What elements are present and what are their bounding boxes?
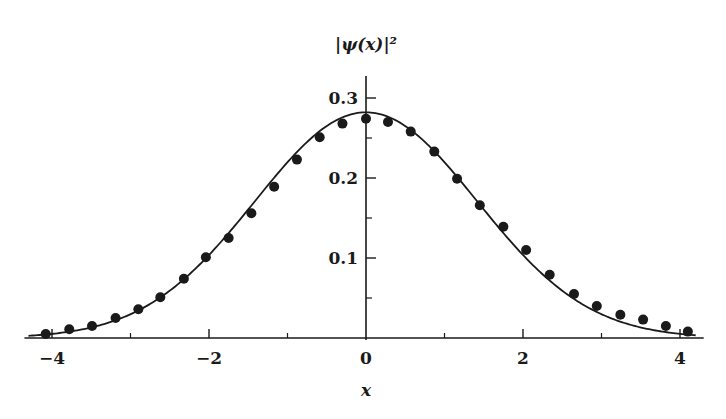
data-point <box>41 329 51 339</box>
data-point <box>452 174 462 184</box>
data-point <box>133 304 143 314</box>
data-point <box>201 252 211 262</box>
data-point <box>475 200 485 210</box>
data-point <box>179 274 189 284</box>
x-tick-label: −4 <box>39 348 65 368</box>
data-point <box>155 292 165 302</box>
data-point <box>337 119 347 129</box>
data-point <box>521 245 531 255</box>
x-tick-label: −2 <box>196 348 222 368</box>
data-point <box>545 270 555 280</box>
y-axis-title: |ψ(x)|² <box>335 34 397 54</box>
data-point <box>383 117 393 127</box>
x-axis-title: x <box>360 380 372 400</box>
data-point <box>269 182 279 192</box>
data-point <box>429 147 439 157</box>
data-point <box>315 132 325 142</box>
chart: −4−20240.10.20.3 |ψ(x)|² x <box>0 0 726 419</box>
data-point <box>406 127 416 137</box>
data-point <box>246 208 256 218</box>
data-point <box>569 289 579 299</box>
y-tick-label: 0.3 <box>328 88 358 108</box>
data-point <box>592 301 602 311</box>
y-tick-label: 0.2 <box>328 168 358 188</box>
data-point <box>87 321 97 331</box>
data-point <box>638 315 648 325</box>
data-point <box>224 233 234 243</box>
x-tick-label: 4 <box>674 348 686 368</box>
data-point <box>683 327 693 337</box>
data-point <box>661 321 671 331</box>
y-tick-label: 0.1 <box>328 248 358 268</box>
x-tick-label: 2 <box>517 348 529 368</box>
data-point <box>64 324 74 334</box>
data-point <box>361 114 371 124</box>
x-tick-label: 0 <box>360 348 372 368</box>
data-point <box>111 313 121 323</box>
data-point <box>498 222 508 232</box>
data-point <box>615 310 625 320</box>
data-point <box>292 155 302 165</box>
